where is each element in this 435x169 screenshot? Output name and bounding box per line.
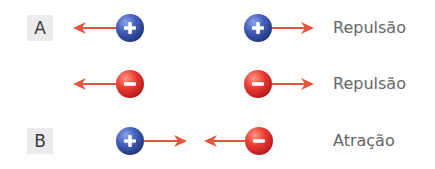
s0r0-right-positive-charge-icon xyxy=(244,14,272,42)
s1r0-right-negative-charge-icon xyxy=(245,127,273,155)
s1r0-right-force-arrow xyxy=(204,135,245,147)
s0r1-left-negative-charge-icon xyxy=(116,70,144,98)
s1r0-left-force-arrow xyxy=(144,135,187,147)
s0r0-right-force-arrow xyxy=(272,22,314,34)
s0r1-right-force-arrow xyxy=(272,78,314,90)
s0r1-right-negative-charge-icon xyxy=(244,70,272,98)
charge-diagram xyxy=(0,0,435,169)
s1r0-left-positive-charge-icon xyxy=(116,127,144,155)
s0r0-left-positive-charge-icon xyxy=(116,14,144,42)
s0r1-left-force-arrow xyxy=(73,78,116,90)
s0r0-left-force-arrow xyxy=(73,22,116,34)
